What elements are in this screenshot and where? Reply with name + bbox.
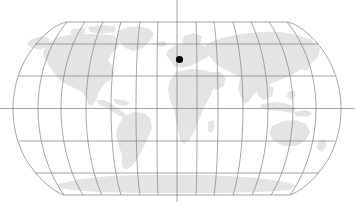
location-marker[interactable] — [176, 56, 183, 63]
world-map-svg — [0, 0, 355, 202]
world-map-figure — [0, 0, 355, 202]
